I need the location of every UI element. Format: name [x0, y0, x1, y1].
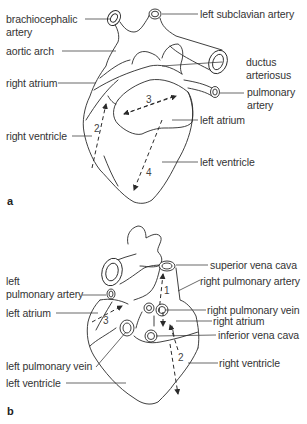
label-ductus-arteriosus: ductus [246, 56, 276, 68]
axis-number-4-a: 4 [146, 167, 152, 178]
label-left-ventricle-b: left ventricle [6, 377, 61, 389]
label-right-ventricle-b: right ventricle [219, 357, 280, 369]
axis-number-3-b: 3 [103, 315, 109, 326]
heart-posterior-view [56, 226, 218, 404]
axis-number-1-b: 1 [164, 285, 170, 296]
label-right-pulmonary-artery: right pulmonary artery [200, 275, 300, 287]
label-pulmonary-artery: pulmonary [247, 86, 295, 98]
panel-letter-a: a [7, 195, 13, 207]
panel-letter-b: b [7, 405, 14, 417]
label-superior-vena-cava: superior vena cava [210, 259, 297, 271]
label-ductus-arteriosus-line2: arteriosus [246, 69, 291, 81]
label-left-subclavian-artery: left subclavian artery [200, 8, 294, 20]
label-left-pulmonary-artery: left [6, 275, 20, 287]
label-left-atrium-b: left atrium [6, 307, 51, 319]
label-inferior-vena-cava: inferior vena cava [218, 329, 299, 341]
label-left-pulmonary-artery-line2: pulmonary artery [6, 288, 83, 300]
label-pulmonary-artery-line2: artery [247, 99, 273, 111]
label-left-atrium-a: left atrium [200, 114, 245, 126]
label-right-atrium-b: right atrium [213, 315, 264, 327]
axis-number-2-a: 2 [94, 123, 100, 134]
axis-number-2-b: 2 [178, 352, 184, 363]
label-left-ventricle-a: left ventricle [200, 156, 255, 168]
label-left-pulmonary-vein: left pulmonary vein [6, 360, 92, 372]
label-brachiocephalic-artery: brachiocephalic [6, 13, 77, 25]
label-brachiocephalic-artery-line2: artery [6, 26, 32, 38]
axis-number-3-a: 3 [146, 94, 152, 105]
label-right-ventricle-a: right ventricle [6, 130, 67, 142]
label-right-atrium-a: right atrium [6, 77, 57, 89]
label-aortic-arch: aortic arch [6, 45, 54, 57]
